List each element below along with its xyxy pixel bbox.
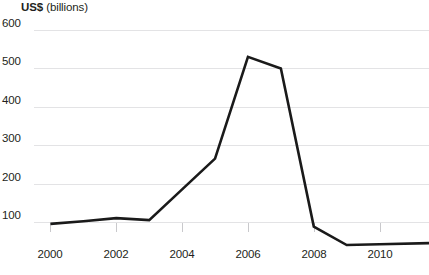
plot-area — [0, 0, 429, 275]
data-series-line — [50, 57, 429, 245]
line-chart: US$ (billions) 600500400300200100 200020… — [0, 0, 429, 275]
